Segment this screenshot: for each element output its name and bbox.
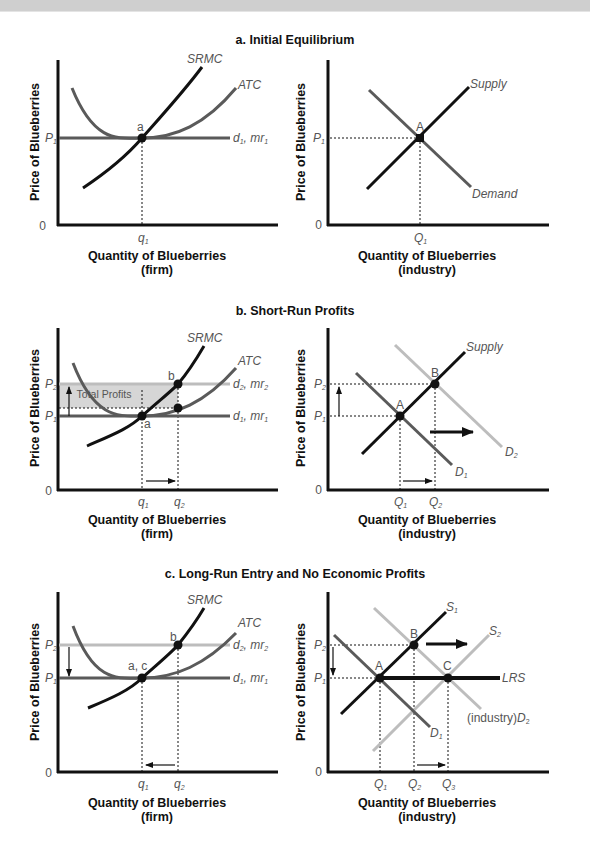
y-axis-label: Price of Blueberries	[294, 349, 308, 467]
total-profits-label: Total Profits	[77, 388, 132, 400]
point-C	[444, 674, 453, 683]
point-b-label: b	[168, 369, 175, 383]
x-axis-label: Quantity of Blueberries	[358, 513, 496, 527]
p1-label: P1	[313, 131, 325, 145]
Q2-label: Q2	[408, 777, 421, 791]
q2-label: q2	[174, 777, 185, 791]
x-axis-label: Quantity of Blueberries	[88, 796, 226, 810]
y-axis-label: Price of Blueberries	[294, 83, 308, 201]
s2-label: S2	[489, 624, 501, 638]
p2-label: P2	[45, 377, 57, 391]
point-A-label: A	[396, 398, 404, 412]
point-b-label: b	[170, 630, 177, 644]
origin-label: 0	[315, 483, 322, 497]
point-a-label: a	[144, 417, 151, 431]
atc-label: ATC	[237, 616, 261, 630]
origin-label: 0	[45, 484, 52, 498]
p2-label: P2	[45, 638, 57, 652]
point-B	[431, 380, 440, 389]
chart-b-industry: Price of Blueberries 0 A B Supply D2 D1 …	[294, 328, 549, 541]
y-axis-label: Price of Blueberries	[294, 623, 308, 741]
y-axis-label: Price of Blueberries	[28, 623, 42, 741]
q1-label: q1	[138, 231, 149, 245]
x-axis-label: Quantity of Blueberries	[88, 249, 226, 263]
point-a	[138, 134, 147, 143]
origin-label: 0	[45, 766, 52, 780]
x-axis-sublabel: (industry)	[398, 527, 456, 541]
chart-a-industry: Price of Blueberries 0 A Supply Demand P…	[294, 60, 549, 277]
srmc-curve	[88, 608, 204, 708]
x-axis-label: Quantity of Blueberries	[88, 513, 226, 527]
Q1-label: Q1	[394, 495, 407, 509]
x-axis-sublabel: (industry)	[398, 263, 456, 277]
diagram-canvas: Price of Blueberries 0 a SRMC ATC d1, mr…	[0, 0, 590, 846]
supply-label: Supply	[466, 340, 504, 354]
q1-label: q1	[138, 777, 149, 791]
point-A-label: A	[416, 120, 424, 134]
point-C-label: C	[443, 659, 452, 673]
q1-label: q1	[138, 495, 149, 509]
p2-label: P2	[314, 638, 326, 652]
y-axis-label: Price of Blueberries	[28, 349, 42, 467]
point-atc-q2	[174, 404, 183, 413]
p1-label: P1	[45, 671, 57, 685]
srmc-label: SRMC	[187, 52, 223, 66]
x-axis-sublabel: (firm)	[141, 527, 173, 541]
x-axis-sublabel: (firm)	[141, 263, 173, 277]
lrs-label: LRS	[502, 671, 525, 685]
y-axis-label: Price of Blueberries	[28, 83, 42, 201]
point-ac-label: a, c	[128, 659, 147, 673]
d2-mr2-label: d2, mr2	[233, 377, 268, 391]
point-A-label: A	[375, 659, 383, 673]
p1-label: P1	[314, 671, 326, 685]
d1-mr1-label: d1, mr1	[233, 409, 268, 423]
demand-label: Demand	[472, 187, 518, 201]
Q2-label: Q2	[429, 495, 442, 509]
origin-label: 0	[39, 219, 46, 233]
Q1-label: Q1	[374, 777, 387, 791]
point-B-label: B	[410, 627, 418, 641]
p1-label: P1	[314, 409, 326, 423]
p1-label: P1	[45, 409, 57, 423]
point-B	[410, 641, 419, 650]
point-A	[376, 674, 385, 683]
q2-label: q2	[174, 495, 185, 509]
point-a-label: a	[137, 120, 144, 134]
supply-label: Supply	[470, 77, 508, 91]
point-A	[416, 134, 424, 142]
chart-a-firm: Price of Blueberries 0 a SRMC ATC d1, mr…	[28, 52, 278, 277]
Q1-label: Q1	[414, 231, 427, 245]
point-b	[174, 380, 183, 389]
p2-label: P2	[314, 377, 326, 391]
origin-label: 0	[315, 218, 322, 232]
d2-label: D2	[505, 445, 518, 459]
d1-label: D1	[430, 726, 443, 740]
p1-label: P1	[45, 131, 57, 145]
srmc-label: SRMC	[187, 331, 223, 345]
atc-label: ATC	[237, 78, 261, 92]
Q3-label: Q3	[442, 777, 455, 791]
s1-label: S1	[446, 600, 458, 614]
supply-line	[362, 352, 465, 454]
d2-label: (industry)D2	[467, 711, 530, 725]
x-axis-sublabel: (industry)	[398, 810, 456, 824]
chart-b-firm: Price of Blueberries 0 Total Profits a b…	[28, 328, 278, 541]
point-ac	[138, 674, 147, 683]
point-B-label: B	[431, 366, 439, 380]
x-axis-sublabel: (firm)	[141, 810, 173, 824]
srmc-label: SRMC	[187, 593, 223, 607]
x-axis-label: Quantity of Blueberries	[358, 796, 496, 810]
d1-label: D1	[455, 465, 468, 479]
atc-label: ATC	[237, 354, 261, 368]
atc-curve	[73, 626, 236, 678]
d2-mr2-label: d2, mr2	[233, 638, 268, 652]
x-axis-label: Quantity of Blueberries	[358, 249, 496, 263]
chart-c-industry: Price of Blueberries 0 A B C S1 S2 LRS (…	[294, 592, 549, 824]
d1-mr1-label: d1, mr1	[233, 671, 268, 685]
atc-curve	[72, 88, 236, 138]
point-A	[396, 412, 405, 421]
origin-label: 0	[315, 765, 322, 779]
chart-c-firm: Price of Blueberries 0 a, c b SRMC ATC d…	[28, 592, 278, 824]
d1-mr1-label: d1, mr1	[233, 131, 268, 145]
